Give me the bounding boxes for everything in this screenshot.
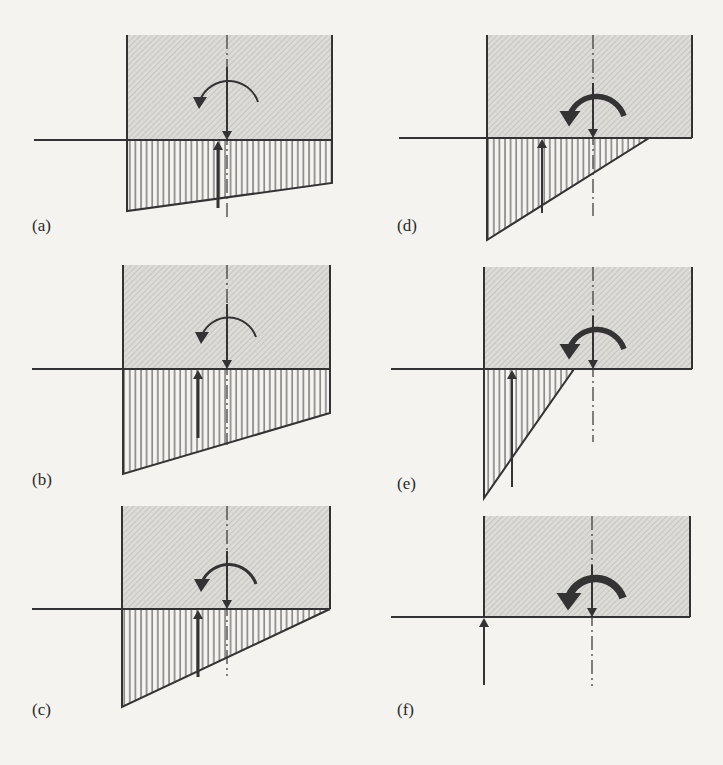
pressure-distribution xyxy=(122,609,330,707)
soil-block xyxy=(487,35,692,138)
panel-label-f: (f) xyxy=(397,700,414,720)
reaction-arrow-head-icon xyxy=(479,618,489,627)
panel-label-b: (b) xyxy=(32,470,52,490)
soil-block xyxy=(127,35,332,140)
panel-a xyxy=(34,35,332,220)
pressure-distribution xyxy=(127,140,332,211)
pressure-distribution xyxy=(487,138,649,240)
panel-c xyxy=(32,506,330,707)
panel-b xyxy=(32,265,330,474)
panel-label-e: (e) xyxy=(397,474,416,494)
panel-d xyxy=(399,35,692,240)
soil-block xyxy=(484,516,690,617)
panel-f xyxy=(391,516,690,686)
panel-label-c: (c) xyxy=(32,700,51,720)
panel-label-a: (a) xyxy=(32,216,51,236)
pressure-distribution xyxy=(484,369,574,498)
foundation-pressure-diagram xyxy=(0,0,723,765)
panel-e xyxy=(391,267,692,498)
soil-block xyxy=(484,267,692,369)
panel-label-d: (d) xyxy=(397,216,417,236)
